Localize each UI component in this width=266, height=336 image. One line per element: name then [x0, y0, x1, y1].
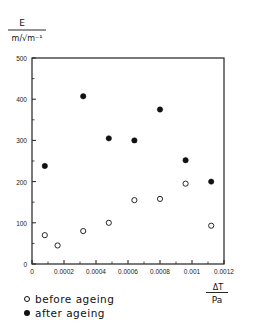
data-point-before	[55, 243, 60, 248]
x-tick-label: 0.001	[184, 268, 201, 275]
data-point-after	[42, 163, 47, 168]
data-point-after	[183, 157, 188, 162]
x-tick-label: 0.0004	[86, 268, 106, 275]
data-point-after	[106, 136, 111, 141]
y-tick-label: 100	[16, 220, 27, 227]
y-tick-label: 400	[16, 96, 27, 103]
open-circle-icon	[24, 296, 30, 302]
y-tick-label: 500	[16, 55, 27, 62]
y-tick-label: 300	[16, 137, 27, 144]
data-point-before	[157, 196, 162, 201]
data-point-after	[81, 94, 86, 99]
x-tick-label: 0.0012	[214, 268, 234, 275]
x-axis-label-denominator: Pa	[212, 295, 223, 305]
x-tick-label: 0.0006	[118, 268, 138, 275]
data-point-before	[132, 198, 137, 203]
y-axis-label-numerator: E	[19, 18, 25, 28]
x-tick-label: 0	[30, 268, 34, 275]
data-point-before	[183, 181, 188, 186]
plot-frame	[32, 58, 224, 264]
data-point-after	[157, 107, 162, 112]
legend-item-after: after ageing	[24, 306, 114, 320]
scatter-chart: 010020030040050000.00020.00040.00060.000…	[0, 0, 266, 336]
data-point-before	[81, 228, 86, 233]
x-tick-label: 0.0008	[150, 268, 170, 275]
y-tick-label: 200	[16, 179, 27, 186]
data-point-before	[209, 223, 214, 228]
legend-item-before: before ageing	[24, 292, 114, 306]
data-point-after	[132, 138, 137, 143]
y-axis-label-denominator: m/√m⁻¹	[12, 34, 43, 43]
filled-circle-icon	[24, 310, 30, 316]
x-axis-label-numerator: ΔT	[213, 283, 223, 292]
data-point-before	[42, 233, 47, 238]
legend: before ageing after ageing	[24, 292, 114, 320]
legend-label-after: after ageing	[35, 307, 105, 319]
legend-label-before: before ageing	[35, 293, 114, 305]
x-tick-label: 0.0002	[54, 268, 74, 275]
y-tick-label: 0	[23, 261, 27, 268]
data-point-before	[106, 220, 111, 225]
data-point-after	[209, 179, 214, 184]
